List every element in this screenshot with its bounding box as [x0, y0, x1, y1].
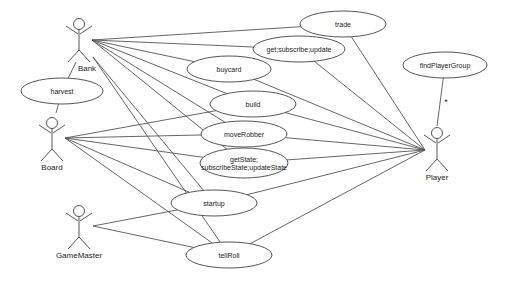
use-case-trade[interactable]: trade	[300, 11, 386, 37]
actor-board[interactable]: Board	[39, 118, 65, 173]
association-board-harvest	[56, 104, 58, 113]
association-board-startup	[65, 138, 190, 192]
use-case-build[interactable]: build	[210, 91, 296, 117]
stick-figure-icon	[39, 118, 65, 162]
association-bank-getsub	[92, 40, 254, 47]
use-case-label: tellRoll	[218, 252, 239, 259]
use-case-tellroll[interactable]: tellRoll	[186, 242, 272, 268]
actor-label: Player	[426, 173, 449, 182]
association-bank-trade	[92, 27, 301, 40]
use-case-label: buycard	[217, 66, 242, 74]
use-case-findplayergroup[interactable]: findPlayerGroup	[403, 52, 487, 78]
association-board-tellroll	[65, 138, 212, 243]
association-bank-moverobber	[92, 40, 225, 122]
use-cases-layer: tradeget;subscribe;updatebuycardbuildmov…	[21, 11, 487, 268]
multiplicity-label: *	[444, 97, 448, 107]
use-case-label: trade	[335, 21, 351, 28]
use-case-diagram: * tradeget;subscribe;updatebuycardbuildm…	[0, 0, 506, 281]
use-case-label: build	[246, 101, 261, 108]
stick-figure-icon	[66, 19, 92, 63]
association-gamemaster-startup	[93, 210, 178, 226]
stick-figure-icon	[66, 206, 92, 250]
actor-label: GameMaster	[56, 251, 103, 260]
actor-label: Board	[41, 163, 62, 172]
association-board-moverobber	[65, 135, 201, 138]
use-case-getsub[interactable]: get;subscribe;update	[253, 36, 345, 62]
use-case-moverobber[interactable]: moveRobber	[201, 121, 287, 147]
use-case-label: moveRobber	[224, 131, 265, 138]
association-gamemaster-tellroll	[93, 226, 194, 248]
use-case-label: findPlayerGroup	[420, 62, 471, 70]
use-case-label: harvest	[51, 88, 74, 95]
association-player-moverobber	[285, 138, 425, 150]
use-case-label: getState;	[230, 156, 258, 164]
use-case-getstate[interactable]: getState;subscribeState;updateState	[200, 148, 288, 178]
association-bank-startup	[93, 57, 204, 190]
association-bank-buycard	[92, 40, 194, 62]
stick-figure-icon	[424, 128, 450, 172]
use-case-label: get;subscribe;update	[267, 46, 332, 54]
actor-label: Bank	[78, 64, 97, 73]
association-bank-harvest	[68, 62, 76, 78]
use-case-label: subscribeState;updateState	[201, 164, 287, 172]
use-case-label: startup	[203, 200, 225, 208]
association-player-getsub	[314, 61, 425, 150]
use-case-harvest[interactable]: harvest	[21, 78, 103, 104]
use-case-buycard[interactable]: buycard	[187, 56, 271, 82]
association-board-getstate	[65, 138, 203, 157]
actor-bank[interactable]: Bank	[66, 19, 97, 74]
actor-player[interactable]: Player	[424, 128, 450, 183]
actor-gamemaster[interactable]: GameMaster	[56, 206, 103, 261]
association-player-findplayergroup	[437, 78, 443, 126]
use-case-startup[interactable]: startup	[171, 190, 257, 216]
